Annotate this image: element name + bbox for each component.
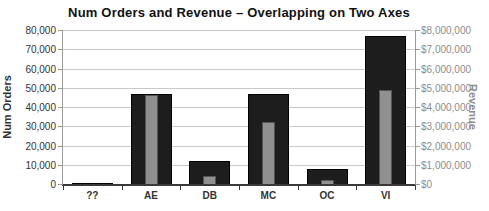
- right-axis-tick-label: $0: [421, 179, 485, 190]
- right-axis-tick-mark: [415, 165, 420, 166]
- bar-revenue-oc: [321, 180, 334, 184]
- left-axis-tick-mark: [58, 49, 63, 50]
- right-axis-tick-mark: [415, 126, 420, 127]
- left-axis-tick-label: 40,000: [0, 102, 56, 113]
- category-label-mc: MC: [239, 190, 298, 201]
- bar-revenue-vi: [379, 90, 392, 184]
- category-label-: ??: [63, 190, 122, 201]
- right-axis-tick-label: $1,000,000: [421, 160, 485, 171]
- bar-revenue-ae: [145, 95, 158, 184]
- right-axis-tick-label: $7,000,000: [421, 44, 485, 55]
- left-axis-tick-label: 50,000: [0, 83, 56, 94]
- gridline: [63, 69, 415, 70]
- left-axis-tick-label: 30,000: [0, 121, 56, 132]
- right-axis-tick-label: $5,000,000: [421, 83, 485, 94]
- chart-title: Num Orders and Revenue – Overlapping on …: [0, 5, 478, 20]
- right-axis-tick-label: $2,000,000: [421, 141, 485, 152]
- gridline: [63, 146, 415, 147]
- category-label-vi: VI: [356, 190, 415, 201]
- gridline: [63, 107, 415, 108]
- left-axis-tick-mark: [58, 69, 63, 70]
- bar-revenue-db: [203, 176, 216, 184]
- left-axis-tick-mark: [58, 146, 63, 147]
- category-label-ae: AE: [122, 190, 181, 201]
- bar-revenue-mc: [262, 122, 275, 184]
- gridline: [63, 126, 415, 127]
- left-axis-tick-label: 0: [0, 179, 56, 190]
- left-axis-tick-label: 70,000: [0, 44, 56, 55]
- bar-num-orders-: [72, 183, 113, 184]
- left-axis-tick-mark: [58, 88, 63, 89]
- gridline: [63, 88, 415, 89]
- right-axis-tick-mark: [415, 30, 420, 31]
- right-axis-tick-mark: [415, 88, 420, 89]
- right-axis-tick-label: $6,000,000: [421, 64, 485, 75]
- right-axis-tick-mark: [415, 107, 420, 108]
- right-axis-tick-mark: [415, 49, 420, 50]
- category-label-oc: OC: [298, 190, 357, 201]
- left-axis-tick-label: 60,000: [0, 64, 56, 75]
- right-axis-tick-mark: [415, 69, 420, 70]
- left-axis-tick-label: 20,000: [0, 141, 56, 152]
- gridline: [63, 165, 415, 166]
- left-axis-tick-label: 10,000: [0, 160, 56, 171]
- left-axis-tick-mark: [58, 126, 63, 127]
- left-axis-tick-mark: [58, 30, 63, 31]
- left-axis-tick-label: 80,000: [0, 25, 56, 36]
- right-axis-tick-label: $4,000,000: [421, 102, 485, 113]
- gridline: [63, 49, 415, 50]
- left-axis-tick-mark: [58, 184, 63, 185]
- left-axis-tick-mark: [58, 107, 63, 108]
- dual-axis-bar-chart: Num Orders and Revenue – Overlapping on …: [0, 0, 489, 211]
- x-axis-tick-mark: [415, 186, 416, 190]
- category-label-db: DB: [180, 190, 239, 201]
- right-axis-tick-label: $3,000,000: [421, 121, 485, 132]
- plot-area: [63, 30, 415, 184]
- gridline: [63, 30, 415, 31]
- right-axis-tick-label: $8,000,000: [421, 25, 485, 36]
- left-axis-tick-mark: [58, 165, 63, 166]
- right-axis-tick-mark: [415, 184, 420, 185]
- right-axis-tick-mark: [415, 146, 420, 147]
